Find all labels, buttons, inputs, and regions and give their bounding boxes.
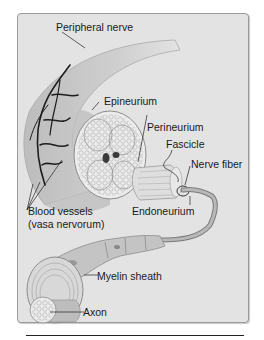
label-myelin-sheath: Myelin sheath (97, 270, 162, 282)
label-epineurium: Epineurium (104, 95, 157, 107)
nerve-illustration (0, 0, 264, 340)
label-peripheral-nerve: Peripheral nerve (56, 21, 133, 33)
label-blood-vessels: Blood vessels (28, 205, 93, 217)
label-perineurium: Perineurium (147, 121, 204, 133)
label-nerve-fiber: Nerve fiber (191, 158, 242, 170)
label-vasa-nervorum: (vasa nervorum) (28, 218, 104, 230)
label-axon: Axon (83, 306, 107, 318)
label-fascicle: Fascicle (166, 138, 205, 150)
label-endoneurium: Endoneurium (132, 205, 194, 217)
horizontal-rule (26, 335, 244, 336)
